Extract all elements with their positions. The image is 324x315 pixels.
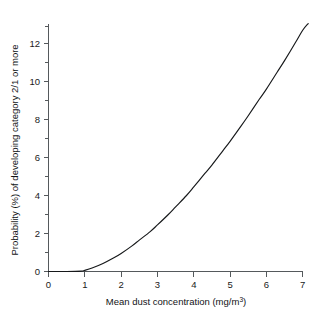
y-tick-label-4: 4 [35, 190, 40, 201]
x-tick-label-6: 6 [264, 279, 269, 290]
x-tick-labels: 0 1 2 3 4 5 6 7 [46, 279, 305, 290]
x-axis-ticks [49, 272, 303, 277]
chart-figure: 0 2 4 6 8 10 12 0 1 2 3 4 5 6 7 Mean dus… [0, 0, 324, 315]
y-tick-label-8: 8 [35, 114, 40, 125]
y-tick-label-10: 10 [29, 76, 40, 87]
x-axis-title-main: Mean dust concentration (mg/m [106, 296, 240, 307]
x-tick-label-7: 7 [300, 279, 305, 290]
y-tick-label-12: 12 [29, 38, 40, 49]
x-tick-label-5: 5 [227, 279, 232, 290]
axes-group [49, 24, 304, 272]
x-tick-label-1: 1 [82, 279, 87, 290]
y-axis-ticks [44, 27, 49, 272]
y-tick-labels: 0 2 4 6 8 10 12 [29, 38, 40, 277]
x-tick-label-3: 3 [155, 279, 160, 290]
x-tick-label-0: 0 [46, 279, 51, 290]
x-tick-label-4: 4 [191, 279, 196, 290]
y-tick-label-2: 2 [35, 228, 40, 239]
x-axis-title-tail: ) [243, 296, 246, 307]
y-tick-label-0: 0 [35, 266, 40, 277]
chart-plot-area: 0 2 4 6 8 10 12 0 1 2 3 4 5 6 7 Mean dus… [0, 0, 324, 315]
x-axis-title: Mean dust concentration (mg/m3) [106, 296, 246, 308]
y-axis-title: Probability (%) of developing category 2… [9, 44, 20, 255]
y-tick-label-6: 6 [35, 152, 40, 163]
data-series-line [49, 24, 309, 272]
x-tick-label-2: 2 [119, 279, 124, 290]
